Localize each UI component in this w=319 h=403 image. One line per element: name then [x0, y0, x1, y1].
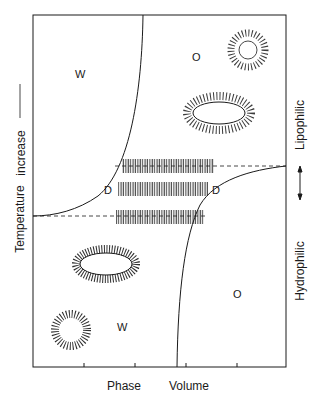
reverse-elongated-micelle [187, 96, 251, 130]
lamellar-layer-1 [122, 159, 214, 173]
double-arrow-icon [298, 166, 302, 200]
right-label-hydrophilic: Hydrophilic [293, 237, 307, 305]
region-label-w-top: W [75, 69, 85, 80]
region-label-o-top: O [192, 52, 201, 63]
right-label-lipophilic: Lipophilic [293, 95, 307, 155]
y-axis-label-temperature: Temperature [13, 181, 27, 257]
lamellar-layer-2 [118, 182, 208, 196]
region-label-w-bottom: W [117, 322, 127, 333]
spherical-micelle [55, 314, 87, 346]
region-label-o-bottom: O [233, 289, 242, 300]
x-axis-label-phase: Phase [107, 380, 141, 392]
lamellar-layer-3 [116, 210, 204, 224]
reverse-spherical-micelle [231, 33, 265, 67]
y-axis-label-increase: increase [14, 123, 28, 183]
region-label-d-left: D [104, 185, 112, 196]
x-axis-ticks [84, 363, 237, 367]
x-axis-label-volume: Volume [169, 380, 209, 392]
phase-diagram-canvas [0, 0, 319, 403]
boundary-curve-lower [177, 166, 286, 367]
elongated-micelle [76, 249, 136, 279]
region-label-d-right: D [212, 185, 220, 196]
